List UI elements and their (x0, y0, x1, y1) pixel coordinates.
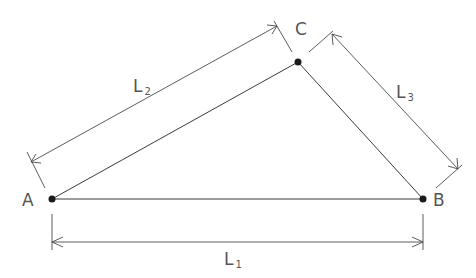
label-l1: L1 (224, 249, 242, 270)
triangle-diagram: A B C L1 L2 L3 (0, 0, 476, 278)
dimension-l3 (309, 31, 462, 188)
label-l2: L2 (133, 76, 151, 97)
label-b: B (433, 190, 445, 210)
label-a: A (22, 190, 34, 210)
point-c (295, 59, 302, 66)
label-c: C (295, 19, 307, 39)
point-a (49, 196, 56, 203)
point-b (420, 196, 427, 203)
dimension-l1 (52, 214, 423, 250)
label-l3: L3 (396, 82, 414, 103)
dimension-l2 (27, 21, 292, 188)
